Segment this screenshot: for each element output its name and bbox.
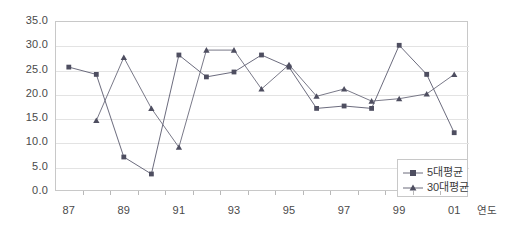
legend-item: 30대평균 (402, 178, 461, 193)
data-point-square (369, 106, 374, 111)
data-point-triangle (93, 118, 99, 124)
data-point-square (177, 53, 182, 58)
y-axis-tick-label: 10.0 (4, 135, 48, 147)
data-point-square (452, 130, 457, 135)
legend-marker-triangle-icon (402, 180, 424, 192)
x-axis-tick-label: 97 (324, 204, 364, 216)
y-axis-tick-label: 5.0 (4, 160, 48, 172)
y-axis-tick-label: 0.0 (4, 184, 48, 196)
data-point-square (314, 106, 319, 111)
y-axis-tick-label: 25.0 (4, 63, 48, 75)
x-axis-tickmark (330, 191, 331, 195)
y-axis-tick-label: 15.0 (4, 111, 48, 123)
x-axis-tick-label: 93 (214, 204, 254, 216)
chart-legend: 5대평균 30대평균 (397, 159, 468, 197)
data-point-triangle (341, 86, 347, 92)
data-point-square (259, 53, 264, 58)
data-point-square (342, 104, 347, 109)
data-point-triangle (121, 54, 127, 60)
x-axis-tick-label: 91 (159, 204, 199, 216)
line-chart: 35.030.025.020.015.010.05.00.0 878991939… (0, 0, 511, 241)
data-point-triangle (286, 62, 292, 68)
data-point-square (397, 43, 402, 48)
x-axis-tick-label: 99 (379, 204, 419, 216)
data-point-square (94, 72, 99, 77)
x-axis-tickmark (110, 191, 111, 195)
x-axis-tickmark (83, 191, 84, 195)
x-axis-tickmark (303, 191, 304, 195)
data-point-square (204, 75, 209, 80)
data-point-square (66, 65, 71, 70)
data-point-square (424, 72, 429, 77)
x-axis-tick-label: 01 (434, 204, 474, 216)
data-point-triangle (148, 105, 154, 111)
x-axis-tickmark (275, 191, 276, 195)
x-axis-tick-label: 89 (104, 204, 144, 216)
x-axis-tick-label: 87 (49, 204, 89, 216)
x-axis-tick-label: 95 (269, 204, 309, 216)
data-point-square (149, 172, 154, 177)
legend-item-label: 30대평균 (427, 178, 469, 194)
x-axis-tickmark (385, 191, 386, 195)
x-axis-tickmark (413, 191, 414, 195)
data-point-triangle (424, 91, 430, 97)
legend-item-label: 5대평균 (427, 163, 463, 179)
x-axis-tickmark (358, 191, 359, 195)
x-axis-title: 연도 (477, 202, 497, 217)
x-axis-tickmark (220, 191, 221, 195)
y-axis-tick-label: 20.0 (4, 87, 48, 99)
legend-item: 5대평균 (402, 163, 461, 178)
x-axis-tickmark (138, 191, 139, 195)
legend-marker-square-icon (402, 165, 424, 177)
x-axis-tickmark (193, 191, 194, 195)
data-point-square (121, 155, 126, 160)
y-axis-tick-label: 30.0 (4, 38, 48, 50)
y-axis-tick-label: 35.0 (4, 14, 48, 26)
data-point-triangle (451, 71, 457, 77)
series-line (69, 45, 454, 174)
data-point-square (232, 70, 237, 75)
x-axis-tickmark (440, 191, 441, 195)
data-point-triangle (176, 144, 182, 150)
x-axis-tickmark (165, 191, 166, 195)
x-axis-tickmark (248, 191, 249, 195)
